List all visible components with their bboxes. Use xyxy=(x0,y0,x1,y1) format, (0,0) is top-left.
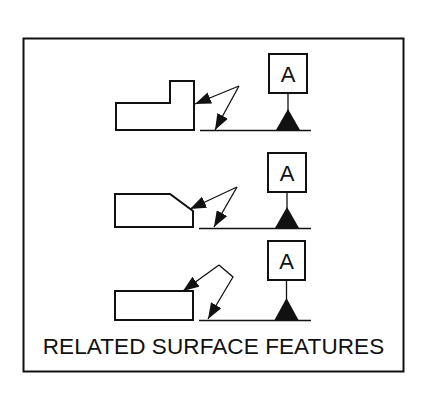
flat-part-outline xyxy=(115,291,193,320)
leader-arrow-to-datum-line xyxy=(215,86,239,130)
datum-triangle-icon xyxy=(275,207,299,228)
leader-arrow-to-part xyxy=(195,86,239,104)
stepped-part-outline xyxy=(116,81,194,130)
figure-caption: RELATED SURFACE FEATURES xyxy=(23,334,404,360)
outer-frame xyxy=(24,39,404,372)
datum-triangle-icon xyxy=(275,298,299,320)
example-3-flat-block: A xyxy=(115,241,311,321)
datum-triangle-icon xyxy=(276,109,300,130)
example-1-stepped-block: A xyxy=(116,54,311,131)
datum-label: A xyxy=(279,249,294,274)
leader-arrow-to-datum-line xyxy=(208,265,233,319)
leader-arrow-to-part xyxy=(183,265,219,291)
datum-label: A xyxy=(281,62,296,87)
example-2-chamfered-block: A xyxy=(115,153,311,229)
datum-label: A xyxy=(280,161,295,186)
chamfered-part-outline xyxy=(115,194,193,227)
